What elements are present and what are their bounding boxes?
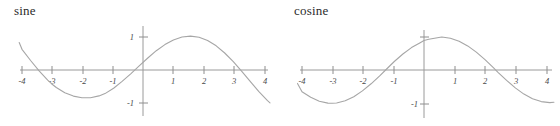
cosine-xlabel--3: -3 — [329, 76, 336, 86]
sine-ylabel-1: 1 — [130, 32, 134, 42]
cosine-plot-svg: -4 -3 -2 -1 1 2 3 4 -1 — [280, 0, 560, 126]
cosine-ylabel--1: -1 — [411, 99, 418, 109]
sine-xlabel-1: 1 — [171, 76, 175, 86]
cosine-xlabel-4: 4 — [545, 76, 550, 86]
sine-xlabel--1: -1 — [109, 76, 116, 86]
sine-xlabel-2: 2 — [202, 76, 207, 86]
cosine-xlabel--4: -4 — [298, 76, 306, 86]
plot-panel-sine: sine -4 -3 -2 -1 1 2 3 4 — [0, 0, 280, 126]
plot-panel-cosine: cosine -4 -3 -2 -1 1 2 3 — [280, 0, 560, 126]
sine-xlabel-3: 3 — [231, 76, 236, 86]
cosine-xlabel--1: -1 — [390, 76, 397, 86]
cosine-xlabel--2: -2 — [359, 76, 367, 86]
cosine-xlabel-1: 1 — [453, 76, 457, 86]
sine-ylabel--1: -1 — [127, 98, 134, 108]
sine-xlabel--4: -4 — [18, 76, 26, 86]
cosine-xlabel-3: 3 — [513, 76, 518, 86]
sine-xlabel-4: 4 — [263, 76, 268, 86]
trig-figure: sine -4 -3 -2 -1 1 2 3 4 — [0, 0, 560, 126]
sine-plot-svg: -4 -3 -2 -1 1 2 3 4 1 -1 — [0, 0, 280, 126]
cosine-xlabel-2: 2 — [483, 76, 488, 86]
sine-xlabel--2: -2 — [79, 76, 87, 86]
